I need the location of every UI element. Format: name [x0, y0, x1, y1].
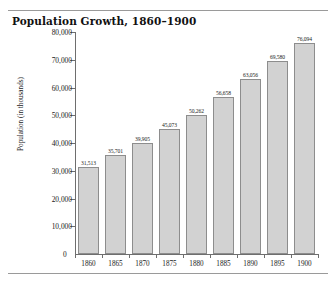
- x-tick-mark: [156, 254, 157, 258]
- x-tick-mark: [291, 254, 292, 258]
- y-axis-label: Population (in thousands): [17, 49, 25, 179]
- y-tick-label: 20,000: [52, 194, 72, 203]
- bar-item: 63,056: [240, 72, 262, 254]
- bar: [78, 167, 100, 254]
- bar: [159, 129, 181, 254]
- bar-item: 45,073: [159, 122, 181, 254]
- bar: [267, 61, 289, 254]
- bar-item: 31,513: [78, 160, 100, 254]
- y-tick-label: 80,000: [52, 28, 72, 37]
- bar: [213, 97, 235, 254]
- x-tick-mark: [102, 254, 103, 258]
- bar-value-label: 45,073: [162, 122, 177, 128]
- top-rule: [8, 10, 328, 11]
- bar-item: 50,262: [186, 108, 208, 254]
- x-tick-mark: [129, 254, 130, 258]
- x-tick-label: 1865: [108, 260, 122, 268]
- bar: [186, 115, 208, 254]
- plot-area: 0 10,00020,00030,00040,00050,00060,00070…: [75, 32, 318, 254]
- x-tick-mark: [210, 254, 211, 258]
- x-tick-label: 1860: [81, 260, 95, 268]
- bar-value-label: 76,094: [297, 36, 312, 42]
- bar-value-label: 63,056: [243, 72, 258, 78]
- bar-item: 69,580: [267, 54, 289, 254]
- x-tick-mark: [264, 254, 265, 258]
- bar: [240, 79, 262, 254]
- bar-value-label: 31,513: [81, 160, 96, 166]
- bar-item: 35,701: [105, 148, 127, 254]
- x-tick-mark: [183, 254, 184, 258]
- bar-item: 39,905: [132, 136, 154, 254]
- figure-page: Population Growth, 1860–1900 Population …: [0, 0, 336, 285]
- bar-value-label: 56,658: [216, 90, 231, 96]
- y-tick-label: 10,000: [52, 222, 72, 231]
- bar: [105, 155, 127, 254]
- x-tick-mark: [237, 254, 238, 258]
- y-tick-label: 50,000: [52, 111, 72, 120]
- x-tick-label: 1900: [297, 260, 311, 268]
- chart-title: Population Growth, 1860–1900: [12, 15, 196, 27]
- bar-value-label: 50,262: [189, 108, 204, 114]
- bar: [132, 143, 154, 254]
- x-tick-label: 1885: [216, 260, 230, 268]
- bar-value-label: 35,701: [108, 148, 123, 154]
- bottom-rule: [8, 273, 328, 274]
- y-tick-label: 40,000: [52, 139, 72, 148]
- bar: [294, 43, 316, 254]
- x-axis-line: [75, 254, 318, 255]
- bar-value-label: 69,580: [270, 54, 285, 60]
- y-tick-label: 60,000: [52, 83, 72, 92]
- x-tick-label: 1875: [162, 260, 176, 268]
- x-tick-mark: [318, 254, 319, 258]
- bar-value-label: 39,905: [135, 136, 150, 142]
- y-tick-label: 70,000: [52, 55, 72, 64]
- bar-item: 76,094: [294, 36, 316, 254]
- x-tick-label: 1870: [135, 260, 149, 268]
- x-tick-label: 1880: [189, 260, 203, 268]
- x-tick-label: 1895: [270, 260, 284, 268]
- y-axis-zero-label: 0: [63, 250, 67, 259]
- bar-item: 56,658: [213, 90, 235, 254]
- y-tick-label: 30,000: [52, 166, 72, 175]
- x-tick-label: 1890: [243, 260, 257, 268]
- x-tick-mark: [75, 254, 76, 258]
- bar-series: 31,51335,70139,90545,07350,26256,65863,0…: [75, 32, 318, 254]
